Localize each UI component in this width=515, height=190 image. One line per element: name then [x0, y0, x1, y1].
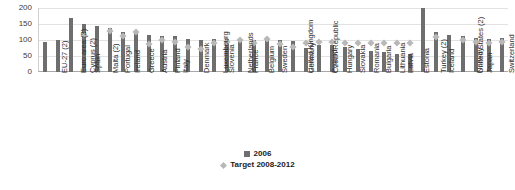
x-axis-tick-label: Portugal: [124, 45, 132, 73]
legend-square-icon: [244, 151, 250, 157]
x-axis-slot: Luxembourg: [195, 73, 208, 143]
x-axis-slot: Romania: [352, 73, 365, 143]
x-axis-tick-label: Iceland: [449, 49, 457, 73]
y-axis: 050100150200: [0, 8, 36, 72]
x-axis-tick-label: Bulgaria: [385, 45, 393, 73]
legend-item: 2006: [244, 150, 272, 158]
x-axis-slot: Portugal: [103, 73, 116, 143]
x-axis-slot: Malta (2): [90, 73, 103, 143]
x-axis-slot: Lithuania: [378, 73, 391, 143]
x-axis-slot: Netherlands: [221, 73, 234, 143]
x-axis-tick-label: Belgium: [267, 46, 275, 73]
x-axis-slot: Denmark: [182, 73, 195, 143]
x-axis-tick-label: Latvia: [407, 53, 415, 73]
x-axis-tick-label: EU-27 (2): [61, 40, 69, 73]
greenhouse-gas-emissions-bar-chart: 050100150200 EU-27 (2)Euro area (3)Cypru…: [0, 0, 515, 190]
marker-target-2008-2012: [211, 39, 218, 46]
x-axis-tick-label: Ireland: [134, 50, 142, 73]
x-axis-tick-label: Austria: [161, 50, 169, 73]
bar-2006: [43, 42, 47, 72]
x-axis-slot: Hungary: [325, 73, 338, 143]
marker-target-2008-2012: [407, 39, 414, 46]
x-axis-tick-label: Malta (2): [112, 43, 120, 73]
x-axis-slot: Turkey (2): [417, 73, 430, 143]
y-axis-tick-label: 50: [23, 52, 32, 60]
bar-slot: [456, 8, 469, 72]
x-axis-tick-label: France: [252, 50, 260, 73]
x-axis-slot: Latvia: [391, 73, 404, 143]
x-axis-slot: Switzerland: [482, 73, 495, 143]
bar-2006: [238, 39, 242, 72]
x-axis-slot: Cyprus (2): [64, 73, 77, 143]
x-axis-slot: Slovakia: [338, 73, 351, 143]
y-axis-tick-label: 0: [28, 68, 32, 76]
marker-target-2008-2012: [185, 43, 192, 50]
x-axis-tick-label: Spain: [93, 54, 101, 73]
clipped-title-strip: [0, 0, 515, 5]
x-axis-tick-label: Euro area (3): [80, 29, 88, 73]
x-axis-tick-label: Sweden: [280, 46, 288, 73]
y-axis-tick-label: 100: [19, 36, 32, 44]
x-axis-slot: Ireland: [116, 73, 129, 143]
x-axis-slot: Austria: [143, 73, 156, 143]
legend-diamond-icon: [220, 161, 227, 168]
x-axis-tick-label: Hungary: [346, 45, 354, 73]
bar-2006: [317, 45, 321, 72]
x-axis-slot: Czech Republic: [299, 73, 312, 143]
x-axis-tick-label: Italy: [182, 59, 190, 73]
x-axis-slot: Sweden: [260, 73, 273, 143]
x-axis-slot: EU-27 (2): [38, 73, 51, 143]
chart-legend: 2006Target 2008-2012: [0, 150, 515, 169]
x-axis-slot: Italy: [169, 73, 182, 143]
x-axis-slot: Japan: [469, 73, 482, 143]
x-axis-slot: Spain: [77, 73, 90, 143]
x-axis-slot: Euro area (3): [51, 73, 64, 143]
x-axis-tick-label: Denmark: [203, 43, 211, 73]
x-axis-slot: Greece: [129, 73, 142, 143]
x-axis-tick-label: Norway: [475, 48, 483, 73]
x-axis-slot: Norway: [456, 73, 469, 143]
x-axis-slot: United States (2): [443, 73, 456, 143]
x-axis-tick-label: Poland: [331, 50, 339, 73]
bar-slot: [38, 8, 51, 72]
x-axis-tick-label: Japan: [486, 53, 494, 73]
x-axis-slot: Iceland: [430, 73, 443, 143]
x-axis-tick-label: Greece: [148, 48, 156, 73]
x-axis-tick-label: Estonia: [423, 48, 431, 73]
bar-slot: [495, 8, 508, 72]
x-axis-slot: Germany: [286, 73, 299, 143]
legend-item-label: Target 2008-2012: [230, 161, 294, 169]
marker-target-2008-2012: [237, 36, 244, 43]
y-axis-tick-label: 150: [19, 20, 32, 28]
legend-item-label: 2006: [254, 150, 272, 158]
legend-item: Target 2008-2012: [220, 161, 294, 169]
x-axis-slot: Estonia: [404, 73, 417, 143]
y-axis-tick-label: 200: [19, 4, 32, 12]
x-axis-slot: Bulgaria: [365, 73, 378, 143]
bar-2006: [56, 40, 60, 72]
x-axis-slot: United Kingdom: [273, 73, 286, 143]
x-axis-slot: Slovenia: [208, 73, 221, 143]
x-axis: EU-27 (2)Euro area (3)Cyprus (2)SpainMal…: [38, 73, 508, 143]
x-axis-tick-label: Slovenia: [229, 44, 237, 73]
x-axis-slot: France: [234, 73, 247, 143]
x-axis-tick-label: Germany: [308, 42, 316, 73]
x-axis-tick-label: Romania: [373, 43, 381, 73]
x-axis-slot: Croatia: [495, 73, 508, 143]
x-axis-slot: Belgium: [247, 73, 260, 143]
x-axis-slot: Poland: [312, 73, 325, 143]
x-axis-slot: Finland: [156, 73, 169, 143]
x-axis-tick-label: Slovakia: [359, 45, 367, 73]
